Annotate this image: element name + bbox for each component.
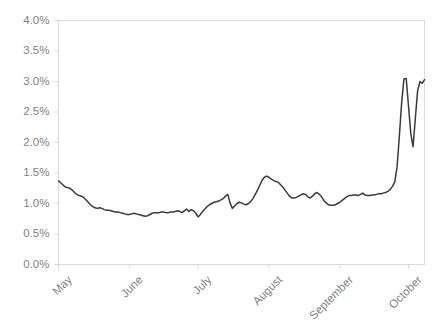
y-axis-tick-label: 4.0% <box>23 14 49 26</box>
y-axis-tick-label: 3.5% <box>23 44 49 56</box>
line-chart: 0.0%0.5%1.0%1.5%2.0%2.5%3.0%3.5%4.0% May… <box>0 0 447 334</box>
y-axis-tick-label: 2.5% <box>23 105 49 117</box>
y-axis-tick-label: 0.0% <box>23 258 49 270</box>
y-axis-tick-label: 1.5% <box>23 166 49 178</box>
y-axis-tick-label: 0.5% <box>23 227 49 239</box>
y-axis-tick-labels: 0.0%0.5%1.0%1.5%2.0%2.5%3.0%3.5%4.0% <box>23 14 49 270</box>
y-axis-tick-label: 1.0% <box>23 197 49 209</box>
chart-container: 0.0%0.5%1.0%1.5%2.0%2.5%3.0%3.5%4.0% May… <box>0 0 447 334</box>
plot-area-border <box>59 21 425 265</box>
y-axis-tick-label: 2.0% <box>23 136 49 148</box>
y-axis-tick-label: 3.0% <box>23 75 49 87</box>
